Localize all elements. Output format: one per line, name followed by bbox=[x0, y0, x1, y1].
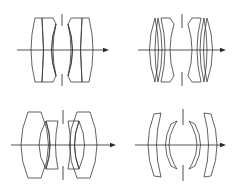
arrow-icon bbox=[110, 143, 116, 147]
arrow-icon bbox=[220, 48, 226, 52]
lens-diagram-top-right bbox=[118, 0, 236, 97]
lens-diagram-svg bbox=[118, 97, 236, 195]
lens-diagram-svg bbox=[0, 0, 118, 97]
lens-diagram-svg bbox=[0, 97, 118, 195]
lens-diagram-bottom-right bbox=[118, 97, 236, 194]
lens-diagram-svg bbox=[118, 0, 236, 97]
lens-diagram-bottom-left bbox=[0, 97, 118, 194]
arrow-icon bbox=[220, 143, 226, 147]
arrow-icon bbox=[103, 48, 109, 52]
lens-diagram-top-left bbox=[0, 0, 118, 97]
